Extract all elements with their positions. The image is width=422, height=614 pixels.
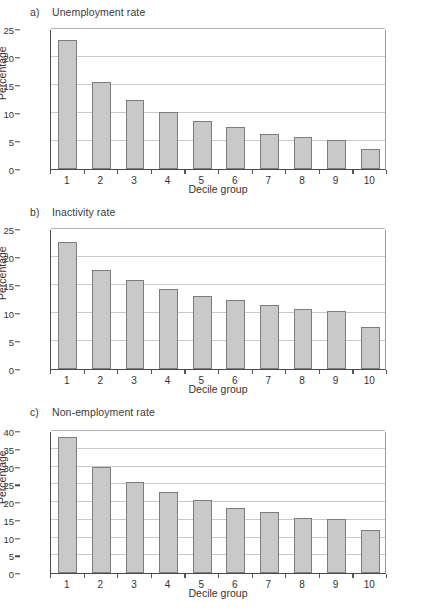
x-axis-tick-mark [84,170,85,174]
x-axis-tick-mark [151,170,152,174]
y-axis-tick-mark [15,449,20,450]
x-axis-tick-mark [352,370,353,374]
y-axis-tick-mark [15,229,20,230]
panel-b-letter: b) [30,206,52,218]
panel-c-xlabel: Decile group [50,587,386,599]
bar [58,437,77,573]
x-axis-tick-mark [117,170,118,174]
y-axis-tick-label: 25 [0,225,14,236]
gridline [51,228,385,229]
x-axis-tick-mark [117,574,118,578]
bar [294,518,313,573]
panel-a-xlabel: Decile group [50,183,386,195]
bar [361,327,380,369]
bar [193,500,212,573]
bar [92,467,111,574]
bar [260,134,279,169]
y-axis-tick-mark [15,341,20,342]
gridline [51,28,385,29]
x-axis-tick-mark [84,574,85,578]
x-axis-tick-mark [218,574,219,578]
panel-a-title: a)Unemployment rate [30,6,145,18]
y-axis-tick-mark [15,369,20,370]
y-axis-tick-mark [15,113,20,114]
x-axis-tick-mark [319,574,320,578]
x-axis-tick-mark [386,170,387,174]
y-axis-tick-mark [15,556,20,557]
x-axis-tick-mark [252,170,253,174]
y-axis-tick-label: 10 [0,309,14,320]
y-axis-tick-label: 0 [0,165,14,176]
y-axis-tick-mark [15,57,20,58]
y-axis-tick-mark [15,313,20,314]
y-axis-tick-label: 20 [0,53,14,64]
panel-b-title-text: Inactivity rate [52,206,115,218]
bar [327,311,346,369]
chart-panel-c: c)Non-employment rate Percentage 0510152… [0,400,422,614]
chart-panel-a: a)Unemployment rate Percentage 051015202… [0,0,422,200]
x-axis-tick-mark [319,370,320,374]
x-axis-tick-mark [285,370,286,374]
bar [260,305,279,369]
gridline [51,430,385,431]
figure-container: a)Unemployment rate Percentage 051015202… [0,0,422,614]
y-axis-tick-label: 25 [0,480,14,491]
y-axis-tick-mark [15,169,20,170]
x-axis-tick-mark [218,370,219,374]
bar [226,508,245,573]
bar [226,127,245,169]
bar [58,242,77,369]
y-axis-tick-label: 0 [0,365,14,376]
y-axis-tick-mark [15,431,20,432]
bar [327,519,346,573]
panel-b-plot-area [50,230,386,370]
x-axis-tick-mark [252,370,253,374]
y-axis-tick-mark [15,573,20,574]
x-axis-tick-mark [84,370,85,374]
chart-panel-b: b)Inactivity rate Percentage 0510152025 … [0,200,422,400]
bar [193,296,212,369]
y-axis-tick-label: 5 [0,337,14,348]
bar [361,149,380,169]
y-axis-tick-mark [15,285,20,286]
panel-c-title: c)Non-employment rate [30,406,155,418]
x-axis-tick-mark [50,574,51,578]
x-axis-tick-mark [352,574,353,578]
y-axis-tick-label: 25 [0,25,14,36]
panel-a-title-text: Unemployment rate [52,6,145,18]
panel-a-plot-area [50,30,386,170]
x-axis-tick-mark [285,574,286,578]
y-axis-tick-label: 20 [0,498,14,509]
x-axis-tick-mark [184,370,185,374]
bar [58,40,77,169]
x-axis-tick-mark [151,370,152,374]
panel-c-letter: c) [30,406,52,418]
bar [361,530,380,573]
x-axis-tick-mark [319,170,320,174]
bar [260,512,279,573]
bar [159,289,178,369]
y-axis-tick-mark [15,29,20,30]
y-axis-tick-label: 15 [0,81,14,92]
bar [294,309,313,369]
y-axis-tick-label: 5 [0,137,14,148]
x-axis-tick-mark [151,574,152,578]
panel-c-ylabel: Percentage [0,450,8,504]
panel-b-bars [51,230,385,369]
bar [159,492,178,573]
panel-c-title-text: Non-employment rate [52,406,155,418]
bar [294,137,313,169]
bar [126,482,145,573]
panel-c-bars [51,432,385,573]
panel-a-bars [51,30,385,169]
x-axis-tick-mark [50,170,51,174]
y-axis-tick-label: 40 [0,427,14,438]
y-axis-tick-mark [15,485,20,486]
x-axis-tick-mark [218,170,219,174]
x-axis-tick-mark [117,370,118,374]
x-axis-tick-mark [352,170,353,174]
bar [126,280,145,369]
bar [193,121,212,169]
bar [327,140,346,169]
x-axis-tick-mark [252,574,253,578]
